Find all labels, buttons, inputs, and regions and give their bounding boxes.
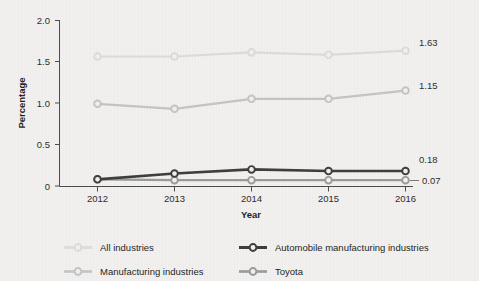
legend-label-all-industries: All industries (100, 242, 154, 253)
x-tick-label-2014: 2014 (241, 193, 262, 204)
x-axis: 2012 2013 2014 2015 2016 Year (60, 187, 417, 221)
legend-swatch-marker-automobile (250, 244, 257, 251)
end-label-toyota: 0.07 (422, 175, 441, 186)
data-point (402, 177, 409, 184)
data-point (94, 101, 101, 108)
data-point (402, 168, 409, 175)
legend-label-manufacturing-industries: Manufacturing industries (100, 266, 204, 277)
y-axis: 2.0 1.5 1.0 0.5 0 Percentage (16, 15, 60, 192)
y-tick-label-2-0: 2.0 (37, 15, 50, 26)
legend-item-all-industries[interactable]: All industries (64, 242, 154, 253)
data-point (402, 87, 409, 94)
x-tick-label-2016: 2016 (395, 193, 416, 204)
series-all-industries (94, 47, 409, 59)
legend-item-automobile-manufacturing-industries[interactable]: Automobile manufacturing industries (239, 242, 429, 253)
data-point (325, 168, 332, 175)
data-point (402, 47, 409, 54)
data-point (248, 96, 255, 103)
legend-swatch-marker-all-industries (75, 244, 82, 251)
data-point (171, 53, 178, 60)
data-point (248, 166, 255, 173)
end-value-labels: 1.63 1.15 0.18 0.07 (410, 37, 441, 186)
data-point (94, 53, 101, 60)
data-point (171, 170, 178, 177)
chart-container: 2.0 1.5 1.0 0.5 0 Percentage 2012 2013 2… (0, 0, 479, 281)
data-point (171, 177, 178, 184)
end-label-automobile: 0.18 (419, 154, 438, 165)
data-point (248, 177, 255, 184)
data-point (325, 52, 332, 59)
end-label-all-industries: 1.63 (419, 37, 438, 48)
x-tick-label-2013: 2013 (164, 193, 185, 204)
x-tick-label-2012: 2012 (87, 193, 108, 204)
x-axis-title: Year (241, 209, 261, 220)
data-point (325, 96, 332, 103)
end-label-manufacturing: 1.15 (419, 80, 438, 91)
y-tick-label-0: 0 (45, 181, 50, 192)
y-axis-title: Percentage (16, 77, 27, 128)
data-point (171, 106, 178, 113)
x-tick-label-2015: 2015 (318, 193, 339, 204)
line-chart: 2.0 1.5 1.0 0.5 0 Percentage 2012 2013 2… (0, 0, 479, 281)
data-point (248, 49, 255, 56)
y-tick-label-1-0: 1.0 (37, 98, 50, 109)
legend-label-toyota: Toyota (275, 266, 304, 277)
legend-swatch-marker-toyota (250, 268, 257, 275)
legend-item-manufacturing-industries[interactable]: Manufacturing industries (64, 266, 204, 277)
y-tick-label-0-5: 0.5 (37, 139, 50, 150)
data-point (94, 176, 101, 183)
y-tick-label-1-5: 1.5 (37, 56, 50, 67)
legend-label-automobile-manufacturing-industries: Automobile manufacturing industries (275, 242, 429, 253)
legend-swatch-marker-manufacturing (75, 268, 82, 275)
series-points-manufacturing-industries (94, 87, 409, 112)
chart-legend: All industries Automobile manufacturing … (64, 242, 429, 277)
data-point (325, 177, 332, 184)
legend-item-toyota[interactable]: Toyota (239, 266, 304, 277)
series-manufacturing-industries (94, 87, 409, 112)
